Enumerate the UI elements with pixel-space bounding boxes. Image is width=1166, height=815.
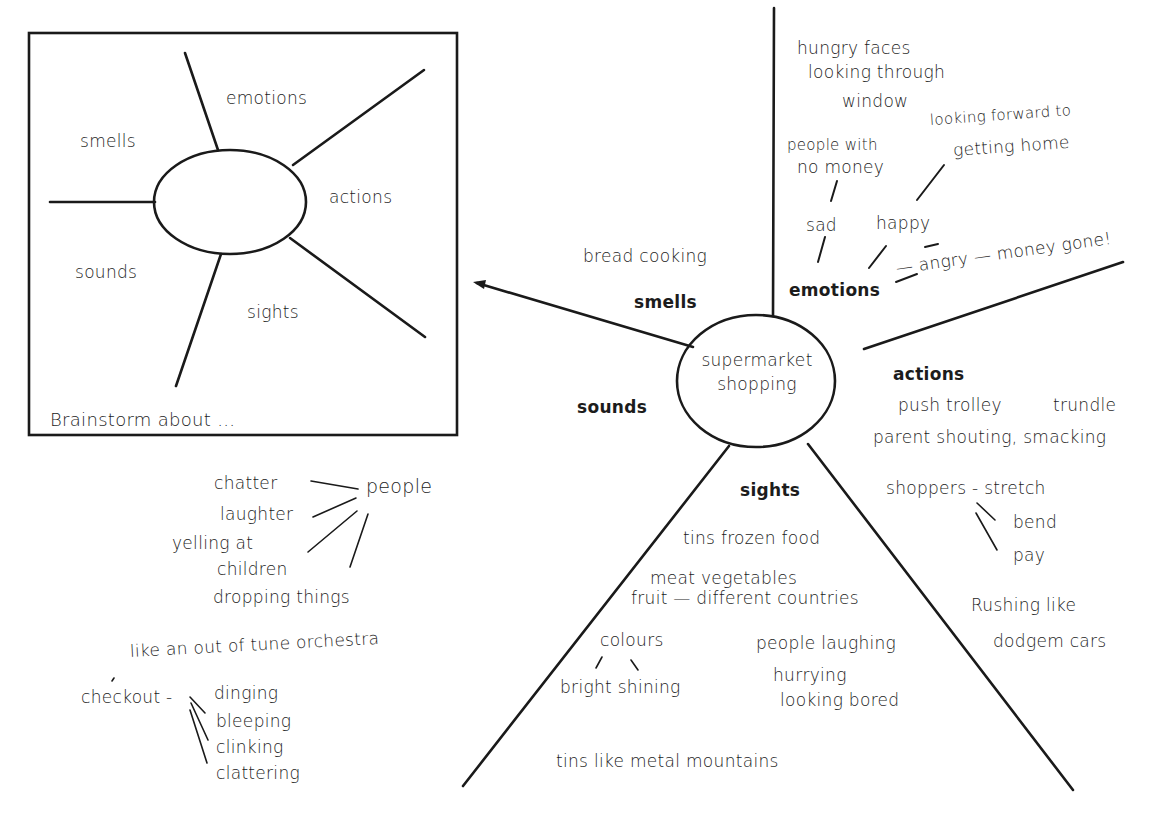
sound-item: clattering: [216, 763, 300, 783]
sight-item: looking bored: [780, 690, 899, 710]
template-label-actions: actions: [329, 187, 392, 207]
sight-item: tins frozen food: [683, 528, 820, 548]
template-label-sights: sights: [247, 302, 299, 322]
sight-item: meat vegetables: [650, 568, 797, 588]
sound-item: chatter: [214, 473, 277, 493]
action-item: parent shouting, smacking: [873, 427, 1106, 447]
sight-item: fruit — different countries: [631, 588, 859, 608]
sound-item: children: [217, 559, 288, 579]
template-label-emotions: emotions: [226, 88, 307, 108]
arrow-head-icon: [473, 280, 486, 289]
sound-item: clinking: [216, 737, 284, 757]
sound-item: yelling at: [172, 533, 253, 553]
sight-item: tins like metal mountains: [556, 751, 779, 771]
emotions-label: emotions: [789, 280, 880, 300]
emotion-item: window: [842, 91, 908, 111]
action-item: pay: [1013, 545, 1045, 565]
actions-label: actions: [893, 364, 965, 384]
emotion-item: happy: [876, 213, 930, 233]
sounds-label: sounds: [577, 397, 647, 417]
sound-item: laughter: [220, 504, 293, 524]
sound-item: dropping things: [213, 587, 350, 607]
emotion-item: sad: [806, 215, 837, 235]
action-item: trundle: [1053, 395, 1116, 415]
action-item: push trolley: [898, 395, 1002, 415]
action-item: shoppers - stretch: [886, 478, 1046, 498]
emotion-item: hungry faces: [797, 38, 911, 58]
center-line-2: shopping: [690, 372, 824, 396]
sound-item: bleeping: [216, 711, 291, 731]
sight-item: people laughing: [756, 633, 896, 653]
action-item: dodgem cars: [993, 631, 1107, 651]
center-node: supermarket shopping: [690, 348, 824, 396]
template-label-sounds: sounds: [75, 262, 137, 282]
template-label-smells: smells: [80, 131, 136, 151]
sights-label: sights: [740, 480, 800, 500]
template-center-oval: [154, 150, 306, 254]
emotion-item: looking through: [808, 62, 945, 82]
sound-item: checkout -: [81, 687, 173, 707]
action-item: bend: [1013, 512, 1057, 532]
emotion-item: no money: [797, 157, 884, 177]
sight-item: bright shining: [560, 677, 681, 697]
smells-label: smells: [634, 292, 697, 312]
template-caption: Brainstorm about ...: [50, 410, 235, 430]
center-line-1: supermarket: [690, 348, 824, 372]
sight-item: colours: [600, 630, 664, 650]
emotion-item: people with: [787, 135, 878, 155]
sight-item: hurrying: [773, 665, 847, 685]
sound-item: dinging: [214, 683, 278, 703]
sound-item: people: [366, 476, 432, 496]
action-item: Rushing like: [971, 595, 1076, 615]
smells-item: bread cooking: [583, 246, 707, 266]
